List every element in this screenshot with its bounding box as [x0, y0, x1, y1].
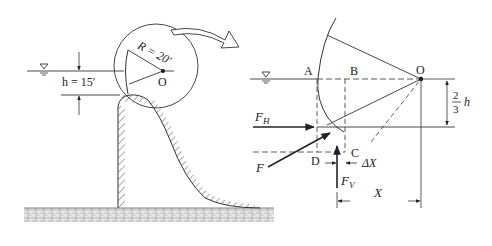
curved-arrow-icon [171, 28, 239, 48]
point-D-label: D [311, 154, 320, 168]
force-vertical-label: FV [340, 173, 356, 190]
depth-label: h = 15′ [62, 75, 96, 89]
point-A-label: A [304, 64, 313, 78]
two-thirds-h-label: 2 3 h [452, 89, 470, 115]
force-resultant-label: F [255, 160, 265, 175]
force-resultant-arrow [268, 133, 330, 167]
svg-text:2: 2 [453, 89, 459, 101]
center-label: O [158, 75, 167, 89]
point-C-label: C [351, 146, 359, 160]
gate-arc-detail [318, 18, 344, 132]
spillway-dam [118, 95, 260, 208]
x-dimension-label: X [373, 185, 383, 200]
right-figure: A B O C D FH F FV ΔX X 2 3 h [250, 18, 470, 208]
radius-label: R = 20′ [134, 38, 174, 68]
gate-circle [114, 24, 198, 108]
point-O-label: O [416, 63, 425, 77]
water-surface-icon [40, 64, 48, 75]
point-B-label: B [350, 64, 358, 78]
force-horizontal-label: FH [254, 109, 270, 126]
svg-text:h: h [464, 95, 470, 109]
svg-text:3: 3 [453, 103, 459, 115]
tainter-gate-arc [126, 50, 129, 94]
left-figure: h = 15′ R = 20′ O [24, 24, 274, 222]
water-surface-icon-right [262, 72, 270, 83]
delta-x-label: ΔX [361, 156, 377, 170]
diagram-canvas: h = 15′ R = 20′ O [0, 0, 492, 246]
ground [24, 208, 274, 222]
